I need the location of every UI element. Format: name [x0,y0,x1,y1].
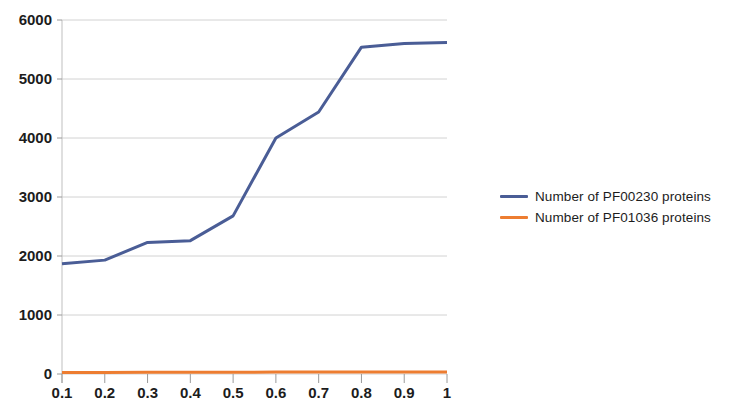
data-series [62,42,447,372]
x-axis-tick-labels: 0.10.20.30.40.50.60.70.80.91 [52,384,452,401]
legend-color-swatch-series-1 [500,195,528,198]
y-tick-label: 2000 [19,247,52,264]
x-tick-label: 0.4 [180,384,202,401]
chart-container: 0100020003000400050006000 0.10.20.30.40.… [0,0,749,408]
x-tick-marks [62,374,447,383]
x-tick-label: 0.6 [265,384,286,401]
y-tick-marks [57,20,62,374]
x-tick-label: 0.5 [223,384,244,401]
y-tick-label: 0 [44,365,52,382]
y-tick-label: 6000 [19,11,52,28]
x-tick-label: 0.1 [52,384,73,401]
x-tick-label: 0.2 [94,384,115,401]
legend-color-swatch-series-2 [500,216,528,219]
gridlines [62,20,447,374]
x-tick-label: 0.7 [308,384,329,401]
legend-label-series-2: Number of PF01036 proteins [535,210,711,225]
y-axis-tick-labels: 0100020003000400050006000 [19,11,52,382]
y-tick-label: 5000 [19,70,52,87]
chart-legend: Number of PF00230 proteins Number of PF0… [500,186,745,228]
series-line-2 [62,372,447,373]
x-tick-label: 1 [443,384,451,401]
y-tick-label: 3000 [19,188,52,205]
series-line-1 [62,42,447,263]
x-tick-label: 0.3 [137,384,158,401]
x-tick-label: 0.9 [394,384,415,401]
y-tick-label: 1000 [19,306,52,323]
legend-item-series-2: Number of PF01036 proteins [500,207,745,228]
x-tick-label: 0.8 [351,384,372,401]
y-tick-label: 4000 [19,129,52,146]
legend-item-series-1: Number of PF00230 proteins [500,186,745,207]
legend-label-series-1: Number of PF00230 proteins [535,189,711,204]
